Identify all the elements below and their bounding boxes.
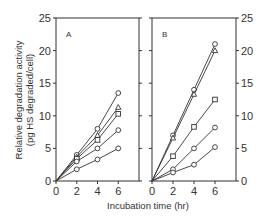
x-tick-label: 4 bbox=[94, 185, 100, 197]
series-line bbox=[56, 107, 118, 181]
x-tick-label: 6 bbox=[115, 185, 121, 197]
plot-frame bbox=[152, 18, 236, 181]
x-tick-label: 2 bbox=[170, 185, 176, 197]
circle-marker bbox=[74, 159, 79, 164]
x-tick-label: 6 bbox=[212, 185, 218, 197]
y-tick-label: 15 bbox=[241, 77, 253, 89]
y-axis-label-line2: (pg HS degraded/cell) bbox=[24, 54, 35, 146]
panel-a-label: A bbox=[66, 30, 72, 39]
circle-marker bbox=[192, 162, 197, 167]
y-axis-label-line1: Relative degradation activity bbox=[13, 40, 24, 159]
y-axis-label: Relative degradation activity (pg HS deg… bbox=[13, 40, 35, 159]
circle-marker bbox=[192, 146, 197, 151]
circle-marker bbox=[95, 146, 100, 151]
circle-marker bbox=[74, 167, 79, 172]
y-tick-label: 0 bbox=[45, 175, 51, 187]
series-line bbox=[56, 130, 118, 181]
y-tick-label: 20 bbox=[39, 45, 51, 57]
x-tick-label: 4 bbox=[191, 185, 197, 197]
panel-b-label: B bbox=[162, 30, 167, 39]
y-tick-label: 25 bbox=[39, 12, 51, 24]
series-line bbox=[56, 93, 118, 181]
square-marker bbox=[192, 125, 197, 130]
circle-marker bbox=[116, 128, 121, 133]
circle-marker bbox=[95, 126, 100, 131]
panel-a-axes: 05101520250246 bbox=[39, 12, 142, 197]
circle-marker bbox=[213, 145, 218, 150]
plot-frame bbox=[56, 18, 139, 181]
circle-marker bbox=[213, 42, 218, 47]
circle-marker bbox=[213, 125, 218, 130]
panel-b-axes: 05101520250246 bbox=[149, 12, 253, 197]
series-line bbox=[56, 114, 118, 181]
panel-b-series bbox=[152, 42, 218, 181]
series-line bbox=[152, 128, 215, 181]
y-tick-label: 10 bbox=[241, 110, 253, 122]
y-tick-label: 20 bbox=[241, 45, 253, 57]
series-line bbox=[56, 148, 118, 181]
circle-marker bbox=[95, 157, 100, 162]
triangle-marker bbox=[116, 105, 121, 110]
square-marker bbox=[171, 154, 176, 159]
y-tick-label: 15 bbox=[39, 77, 51, 89]
circle-marker bbox=[116, 146, 121, 151]
x-tick-label: 0 bbox=[149, 185, 155, 197]
series-line bbox=[152, 51, 215, 181]
x-axis-label: Incubation time (hr) bbox=[107, 200, 189, 211]
circle-marker bbox=[171, 170, 176, 175]
square-marker bbox=[116, 112, 121, 117]
y-tick-label: 0 bbox=[241, 175, 247, 187]
square-marker bbox=[213, 97, 218, 102]
y-tick-label: 10 bbox=[39, 110, 51, 122]
circle-marker bbox=[116, 91, 121, 96]
panel-a-series bbox=[56, 91, 121, 181]
y-tick-label: 25 bbox=[241, 12, 253, 24]
y-tick-label: 5 bbox=[45, 142, 51, 154]
square-marker bbox=[95, 138, 100, 143]
x-tick-label: 0 bbox=[53, 185, 59, 197]
chart-figure: 05101520250246 05101520250246 A B Incuba… bbox=[0, 0, 263, 217]
y-tick-label: 5 bbox=[241, 142, 247, 154]
x-tick-label: 2 bbox=[74, 185, 80, 197]
